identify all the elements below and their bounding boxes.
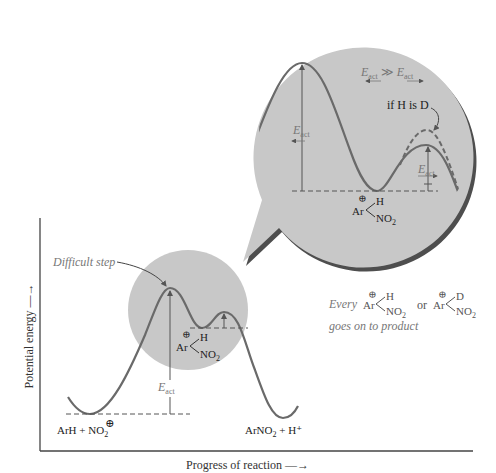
- zoom-bubble: [243, 48, 476, 272]
- deuterium-note: if H is D: [387, 99, 429, 111]
- main-intermediate: ⊕ Ar H NO2: [176, 330, 236, 362]
- comparison-label: Eact ≫ Eact: [361, 66, 413, 81]
- zoom-eact-left-label: Eact: [293, 124, 310, 139]
- main-eact-label: Eact: [158, 380, 175, 397]
- reactants-label: ArH + NO2⊕: [57, 424, 117, 439]
- bond-lines: [446, 295, 456, 313]
- plus-charge-icon: ⊕: [105, 417, 114, 429]
- bond-lines: [366, 200, 376, 220]
- difficult-step-label: Difficult step: [53, 256, 115, 268]
- note-intermediate-d: ⊕ Ar D NO2: [433, 290, 483, 320]
- products-label: ArNO2 + H⁺: [245, 424, 302, 439]
- zoom-intermediate: ⊕ Ar H NO2: [352, 194, 412, 228]
- note-intermediate-h: ⊕ Ar H NO2: [363, 290, 413, 320]
- energy-diagram: [0, 0, 496, 473]
- side-note: Every ⊕ Ar H NO2 or ⊕ Ar D NO2 goes on t…: [327, 290, 496, 340]
- x-axis-label: Progress of reaction —→: [186, 458, 309, 473]
- bond-lines: [376, 295, 386, 313]
- bond-lines: [190, 336, 200, 356]
- zoom-eact-right-label: Eact: [418, 163, 435, 178]
- y-axis-label: Potential energy —→: [22, 283, 37, 388]
